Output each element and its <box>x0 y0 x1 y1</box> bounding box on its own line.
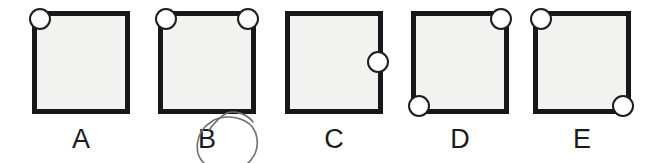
option-label-d: D <box>410 122 510 156</box>
square-wrap-e <box>533 11 631 114</box>
circle-bottom-left <box>408 95 430 117</box>
circle-right-middle <box>367 51 389 73</box>
square-wrap-a <box>32 11 130 114</box>
option-label-b: B <box>157 122 257 156</box>
square-wrap-d <box>411 11 509 114</box>
square-wrap-c <box>285 11 383 114</box>
square-wrap-b <box>158 11 256 114</box>
option-panel-a[interactable]: A <box>31 0 157 163</box>
option-label-e: E <box>532 122 632 156</box>
circle-top-left <box>29 8 51 30</box>
option-panel-b[interactable]: B <box>157 0 283 163</box>
circle-top-left <box>155 8 177 30</box>
option-label-a: A <box>31 122 131 156</box>
circle-top-left <box>530 8 552 30</box>
option-label-c: C <box>284 122 384 156</box>
figure-canvas: A B C D <box>0 0 657 163</box>
circle-top-right <box>490 8 512 30</box>
circle-bottom-right <box>612 95 634 117</box>
option-panel-e[interactable]: E <box>532 0 657 163</box>
circle-top-right <box>237 8 259 30</box>
option-panel-c[interactable]: C <box>284 0 410 163</box>
option-panel-d[interactable]: D <box>410 0 536 163</box>
